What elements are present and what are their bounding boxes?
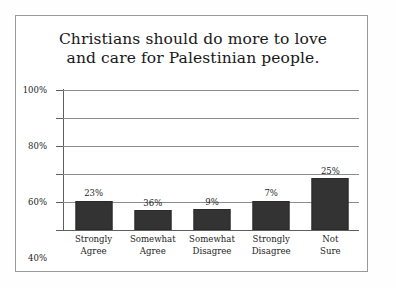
bar-slot: 25% (301, 90, 360, 230)
y-axis-label-100: 100% (23, 86, 47, 95)
x-axis-category-labels: StronglyAgreeSomewhatAgreeSomewhatDisagr… (64, 234, 359, 266)
chart-title: Christians should do more to love and ca… (38, 30, 348, 68)
y-axis-label-80: 80% (28, 142, 47, 151)
x-axis-label-line: Agree (123, 246, 182, 258)
x-axis-label-line: Not (301, 234, 360, 246)
chart-title-line-1: Christians should do more to love (38, 30, 348, 49)
x-axis-label-not-sure: NotSure (301, 234, 360, 257)
y-tick-20: 20% (56, 202, 63, 203)
bar-somewhat-agree[interactable] (134, 210, 171, 230)
bar-slot: 36% (123, 90, 182, 230)
bar-slot: 9% (182, 90, 241, 230)
bar-strongly-disagree[interactable] (253, 201, 290, 230)
y-tick-80: 80% (56, 118, 63, 119)
x-axis-label-somewhat-disagree: SomewhatDisagree (182, 234, 241, 257)
bar-value-label: 23% (84, 189, 103, 198)
x-axis-label-line: Sure (301, 246, 360, 258)
x-axis-label-line: Somewhat (123, 234, 182, 246)
x-axis-label-line: Agree (64, 246, 123, 258)
x-axis-label-strongly-agree: StronglyAgree (64, 234, 123, 257)
x-axis-label-line: Disagree (182, 246, 241, 258)
bar-series: 23%36%9%7%25% (64, 90, 359, 230)
x-axis-label-line: Strongly (242, 234, 301, 246)
bar-value-label: 7% (264, 189, 278, 198)
bar-strongly-agree[interactable] (75, 201, 112, 230)
x-axis-label-somewhat-agree: SomewhatAgree (123, 234, 182, 257)
bar-value-label: 36% (143, 199, 162, 208)
bar-value-label: 25% (321, 167, 340, 176)
y-axis-label-60: 60% (28, 198, 47, 207)
bar-slot: 7% (242, 90, 301, 230)
y-tick-100: 100% (56, 90, 63, 91)
chart-frame: Christians should do more to love and ca… (15, 15, 368, 272)
gridline-0 (63, 230, 359, 231)
bar-value-label: 9% (205, 198, 219, 207)
y-tick-0: 0% (56, 230, 63, 231)
x-axis-label-line: Strongly (64, 234, 123, 246)
x-axis-label-line: Disagree (242, 246, 301, 258)
y-tick-40: 40% (56, 174, 63, 175)
chart-title-line-2: and care for Palestinian people. (38, 49, 348, 68)
bar-slot: 23% (64, 90, 123, 230)
plot-area: 0%20%40%60%80%100% 23%36%9%7%25% (63, 90, 359, 230)
y-axis-label-40: 40% (28, 254, 47, 263)
bar-not-sure[interactable] (312, 178, 349, 230)
bar-somewhat-disagree[interactable] (193, 209, 230, 230)
x-axis-label-line: Somewhat (182, 234, 241, 246)
x-axis-label-strongly-disagree: StronglyDisagree (242, 234, 301, 257)
scanned-page: Christians should do more to love and ca… (0, 0, 396, 288)
y-tick-60: 60% (56, 146, 63, 147)
